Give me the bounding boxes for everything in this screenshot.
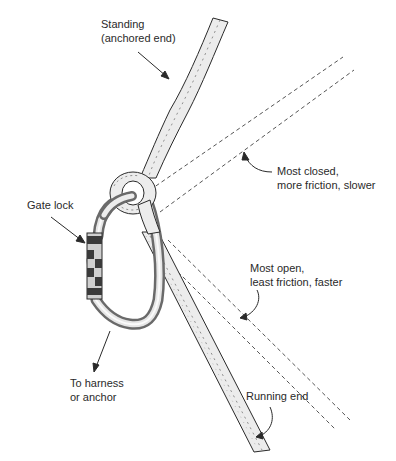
knot — [104, 172, 160, 234]
label-most-open: Most open, least friction, faster — [250, 262, 342, 289]
diagram-artwork — [0, 0, 396, 461]
label-most-open-line2: least friction, faster — [250, 276, 342, 290]
label-harness: To harness or anchor — [70, 377, 124, 404]
label-harness-line2: or anchor — [70, 391, 124, 405]
label-most-open-line1: Most open, — [250, 262, 342, 276]
label-gate-lock-line1: Gate lock — [27, 199, 73, 213]
label-most-closed-line1: Most closed, — [277, 165, 375, 179]
diagram-canvas: Standing (anchored end) Gate lock Most c… — [0, 0, 396, 461]
label-standing-line1: Standing — [101, 18, 176, 32]
label-running-end-line1: Running end — [246, 390, 308, 404]
label-most-closed: Most closed, more friction, slower — [277, 165, 375, 192]
label-standing-line2: (anchored end) — [101, 32, 176, 46]
label-running-end: Running end — [246, 390, 308, 404]
label-harness-line1: To harness — [70, 377, 124, 391]
label-most-closed-line2: more friction, slower — [277, 179, 375, 193]
label-standing: Standing (anchored end) — [101, 18, 176, 45]
label-gate-lock: Gate lock — [27, 199, 73, 213]
gate-lock-sleeve — [87, 233, 102, 299]
